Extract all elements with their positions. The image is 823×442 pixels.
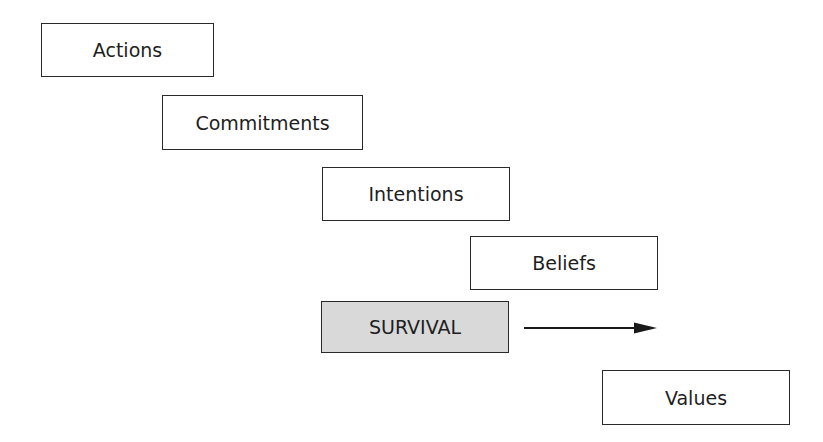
box-survival: SURVIVAL <box>321 301 509 353</box>
box-values: Values <box>602 370 790 425</box>
box-label-beliefs: Beliefs <box>532 252 596 274</box>
box-label-commitments: Commitments <box>195 112 329 134</box>
box-intentions: Intentions <box>322 167 510 221</box>
box-beliefs: Beliefs <box>470 236 658 290</box>
box-label-intentions: Intentions <box>368 183 463 205</box>
box-label-survival: SURVIVAL <box>369 316 461 338</box>
box-actions: Actions <box>41 23 214 77</box>
box-label-actions: Actions <box>93 39 162 61</box>
box-commitments: Commitments <box>162 95 363 150</box>
box-label-values: Values <box>665 387 727 409</box>
right-arrow-icon <box>520 318 665 338</box>
